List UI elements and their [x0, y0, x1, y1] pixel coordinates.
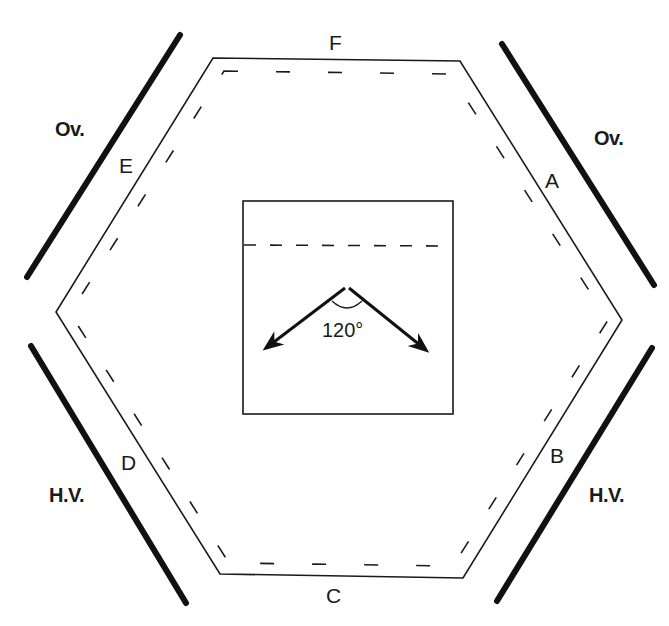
label-ov-top-left: Ov.	[55, 118, 84, 140]
angle-arc	[332, 301, 362, 308]
edge-label-c: C	[326, 584, 341, 607]
inset-dashed-level-line	[244, 245, 452, 246]
edge-label-f: F	[329, 31, 342, 54]
hexagon-diagram: F E A D B C Ov. Ov. H.V. H.V. 120°	[0, 0, 669, 626]
edge-label-d: D	[121, 451, 136, 474]
angle-label: 120°	[322, 319, 363, 341]
label-hv-bottom-left: H.V.	[49, 484, 84, 506]
overflow-bar-top-left	[27, 35, 180, 277]
hv-electrode-bottom-left	[31, 346, 186, 603]
label-ov-top-right: Ov.	[594, 127, 623, 149]
outer-hexagon	[56, 58, 622, 578]
label-hv-bottom-right: H.V.	[589, 484, 624, 506]
hv-electrode-bottom-right	[497, 348, 652, 601]
edge-label-b: B	[550, 444, 564, 467]
edge-label-a: A	[545, 169, 559, 192]
edge-label-e: E	[119, 154, 133, 177]
